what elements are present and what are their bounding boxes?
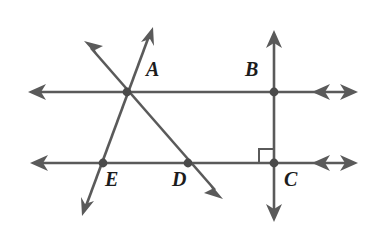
point-dot-e bbox=[99, 159, 108, 168]
point-label-c: C bbox=[284, 169, 297, 189]
point-label-d: D bbox=[172, 169, 186, 189]
point-dot-b bbox=[270, 88, 279, 97]
point-dot-d bbox=[184, 159, 193, 168]
point-dot-a bbox=[123, 88, 132, 97]
point-label-e: E bbox=[105, 169, 118, 189]
geometry-canvas bbox=[0, 0, 373, 235]
point-label-a: A bbox=[146, 59, 159, 79]
point-dot-c bbox=[270, 159, 279, 168]
point-label-b: B bbox=[245, 59, 258, 79]
geometry-figure: A B C D E bbox=[0, 0, 373, 235]
figure-background bbox=[0, 0, 373, 235]
